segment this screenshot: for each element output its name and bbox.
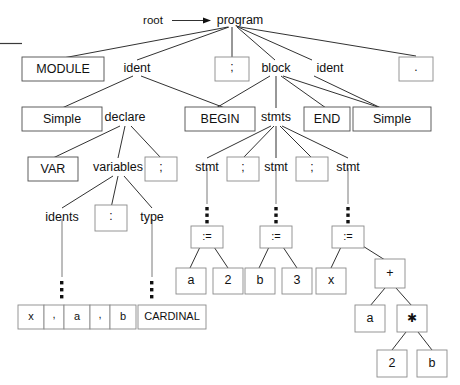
node-semicolon-3: ; [241, 160, 244, 174]
node-program: program [217, 13, 264, 27]
box-plus: + [375, 259, 405, 288]
node-times-operator: ✱ [407, 312, 417, 324]
ident-cell-2: a [74, 310, 81, 322]
ellipsis-idents [60, 281, 63, 298]
node-operand-x: x [328, 273, 335, 287]
box-semicolon-2: ; [145, 157, 177, 181]
node-idents: idents [45, 210, 78, 224]
box-operand-a1: a [176, 268, 206, 294]
box-operand-x: x [316, 268, 346, 294]
node-ident-1: ident [123, 61, 151, 75]
box-operand-b1: b [245, 268, 275, 294]
node-begin-keyword: BEGIN [201, 112, 240, 126]
node-end-keyword: END [314, 112, 340, 126]
box-operand-2b: 2 [377, 350, 407, 377]
ident-cell-3: , [98, 308, 101, 320]
node-stmt-3: stmt [336, 160, 360, 174]
node-simple-2: Simple [373, 112, 411, 126]
box-assign-3: := [332, 226, 364, 248]
box-semicolon-4: ; [296, 157, 328, 181]
box-colon: : [95, 205, 127, 231]
box-operand-b2: b [417, 350, 447, 377]
box-period: . [399, 57, 433, 81]
node-operand-b1: b [257, 273, 264, 287]
node-type: type [140, 210, 164, 224]
node-assign-3: := [343, 230, 352, 242]
node-block: block [261, 61, 291, 75]
box-semicolon-1: ; [215, 57, 249, 81]
ellipsis-stmt-3 [346, 207, 349, 223]
box-assign-1: := [191, 226, 223, 248]
box-simple-2: Simple [353, 107, 431, 131]
box-begin: BEGIN [185, 107, 255, 131]
box-semicolon-3: ; [227, 157, 259, 181]
node-declare: declare [105, 110, 146, 124]
node-variables: variables [93, 160, 143, 174]
node-operand-a2: a [367, 311, 374, 325]
ellipsis-stmt-2 [274, 207, 277, 223]
box-module: MODULE [22, 57, 104, 81]
box-end: END [304, 107, 350, 131]
root-label: root [143, 14, 164, 26]
right-arrow-icon [203, 18, 211, 24]
node-semicolon-4: ; [310, 160, 313, 174]
node-assign-1: := [202, 230, 211, 242]
box-operand-a2: a [355, 305, 385, 332]
box-simple-1: Simple [22, 107, 102, 131]
node-cardinal: CARDINAL [144, 310, 200, 322]
node-plus-operator: + [386, 266, 393, 280]
box-operand-2: 2 [213, 268, 243, 294]
node-simple-1: Simple [43, 112, 81, 126]
box-cardinal: CARDINAL [138, 305, 206, 329]
ident-cell-0: x [28, 310, 34, 322]
tree-canvas: root program ident block ident declare s… [0, 0, 460, 385]
node-colon: : [109, 209, 112, 223]
node-semicolon-2: ; [159, 160, 162, 174]
ident-list-boxes: x , a , b [18, 305, 136, 329]
box-assign-2: := [260, 226, 292, 248]
box-operand-3: 3 [282, 268, 312, 294]
edges-program [63, 27, 416, 60]
node-stmts: stmts [261, 110, 291, 124]
node-stmt-2: stmt [264, 160, 288, 174]
node-var-keyword: VAR [41, 162, 66, 176]
box-var: VAR [28, 157, 78, 181]
node-semicolon-1: ; [230, 60, 233, 74]
ellipsis-stmt-1 [205, 207, 208, 223]
node-ident-2: ident [316, 61, 344, 75]
node-operand-a1: a [188, 273, 195, 287]
node-module-keyword: MODULE [36, 62, 89, 76]
ident-cell-1: , [52, 308, 55, 320]
node-operand-2: 2 [225, 273, 232, 287]
node-operand-b2: b [429, 356, 436, 370]
ellipsis-type [150, 281, 153, 298]
node-operand-2b: 2 [389, 356, 396, 370]
box-times: ✱ [397, 305, 427, 332]
node-assign-2: := [271, 230, 280, 242]
ident-cell-4: b [120, 310, 126, 322]
syntax-tree-diagram: root program ident block ident declare s… [0, 0, 460, 385]
node-period: . [414, 60, 417, 74]
node-operand-3: 3 [294, 273, 301, 287]
node-stmt-1: stmt [195, 160, 219, 174]
